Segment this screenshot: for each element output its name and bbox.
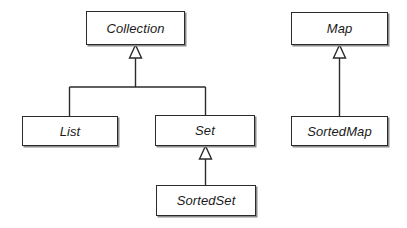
class-name-list: List bbox=[60, 125, 81, 138]
class-box-map[interactable]: Map bbox=[291, 12, 388, 45]
edge-collection-subtypes bbox=[70, 45, 206, 116]
class-box-list[interactable]: List bbox=[22, 116, 118, 146]
class-box-sortedmap[interactable]: SortedMap bbox=[291, 116, 388, 146]
hollow-triangle-arrowhead-set bbox=[200, 146, 212, 159]
class-name-sortedmap: SortedMap bbox=[307, 125, 372, 138]
hollow-triangle-arrowhead-map bbox=[334, 45, 346, 58]
class-name-collection: Collection bbox=[106, 22, 164, 35]
class-box-set[interactable]: Set bbox=[155, 115, 255, 146]
uml-class-diagram: Collection List Set SortedSet Map Sorted… bbox=[0, 0, 407, 228]
class-box-collection[interactable]: Collection bbox=[86, 11, 185, 45]
hollow-triangle-arrowhead-collection bbox=[130, 45, 142, 58]
edge-sortedmap-to-map bbox=[334, 45, 346, 116]
edge-sortedset-to-set bbox=[200, 146, 212, 185]
class-name-map: Map bbox=[327, 22, 353, 35]
class-box-sortedset[interactable]: SortedSet bbox=[156, 185, 256, 216]
class-name-sortedset: SortedSet bbox=[177, 194, 236, 207]
class-name-set: Set bbox=[195, 124, 215, 137]
